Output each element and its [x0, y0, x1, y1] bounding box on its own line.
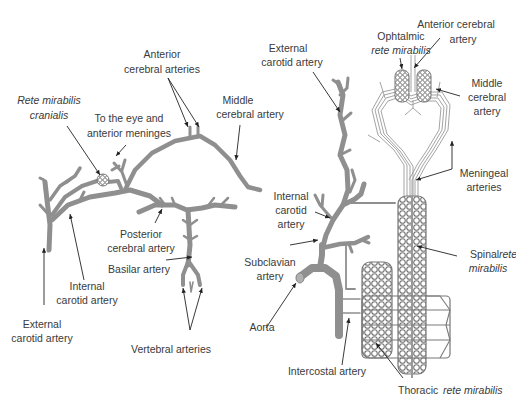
label-spinal-rete-mirabilis: Spinal: [470, 248, 499, 260]
label-anterior-cerebral-arteries: Anterior: [144, 48, 181, 60]
svg-text:rete mirabilis: rete mirabilis: [443, 384, 503, 396]
svg-text:cerebral: cerebral: [468, 91, 506, 103]
label-vertebral-arteries: Vertebral arteries: [131, 343, 211, 355]
svg-text:artery: artery: [474, 105, 502, 117]
label-internal-carotid-artery-right: Internal: [273, 190, 308, 202]
label-anterior-cerebral-artery-right: Anterior cerebral: [417, 18, 495, 30]
label-external-carotid-artery: External: [23, 318, 62, 330]
label-basilar-artery: Basilar artery: [108, 263, 171, 275]
rete-mirabilis-diagram: Rete mirabilis cranialis To the eye and …: [0, 0, 516, 404]
svg-text:artery: artery: [278, 218, 306, 230]
label-ophthalmic-rete-mirabilis: Ophtalmic: [377, 30, 424, 42]
label-middle-cerebral-artery: Middle: [223, 94, 254, 106]
svg-text:rete mirabilis: rete mirabilis: [371, 44, 431, 56]
label-rete-cranialis: Rete mirabilis: [17, 94, 81, 106]
svg-text:mirabilis: mirabilis: [469, 262, 508, 274]
svg-text:cerebral artery: cerebral artery: [216, 108, 284, 120]
svg-text:arteries: arteries: [466, 181, 501, 193]
label-intercostal-artery: Intercostal artery: [288, 365, 367, 377]
label-aorta: Aorta: [249, 321, 274, 333]
rete-mirabilis-cranialis: [97, 174, 109, 186]
label-eye-meninges: To the eye and: [95, 112, 164, 124]
svg-text:carotid artery: carotid artery: [11, 332, 73, 344]
svg-text:anterior meninges: anterior meninges: [87, 127, 171, 139]
label-meningeal-arteries: Meningeal: [460, 167, 508, 179]
svg-text:cerebral artery: cerebral artery: [107, 242, 175, 254]
label-external-carotid-artery-right: External: [269, 42, 308, 54]
label-internal-carotid-artery: Internal: [69, 280, 104, 292]
svg-text:rete: rete: [499, 248, 516, 260]
svg-text:artery: artery: [450, 33, 478, 45]
label-thoracic-rete-mirabilis: Thoracic: [398, 384, 438, 396]
label-middle-cerebral-artery-right: Middle: [472, 77, 503, 89]
svg-text:carotid artery: carotid artery: [261, 56, 323, 68]
label-posterior-cerebral-artery: Posterior: [120, 228, 163, 240]
left-labels: Rete mirabilis cranialis To the eye and …: [11, 48, 284, 355]
label-subclavian-artery: Subclavian: [244, 256, 296, 268]
svg-text:cranialis: cranialis: [30, 109, 69, 121]
svg-text:cerebral arteries: cerebral arteries: [124, 63, 200, 75]
svg-text:carotid artery: carotid artery: [56, 294, 118, 306]
ophthalmic-rete-mirabilis-left: [395, 70, 409, 102]
svg-text:carotid: carotid: [275, 204, 307, 216]
ophthalmic-rete-mirabilis-right: [417, 70, 431, 102]
svg-text:artery: artery: [257, 270, 285, 282]
